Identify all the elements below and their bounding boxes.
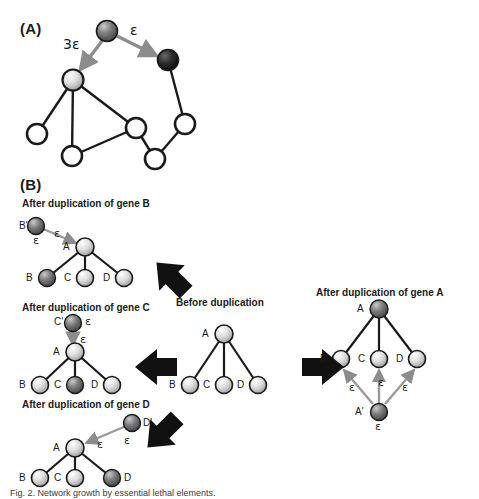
node-b <box>32 377 49 394</box>
label-a-before: A <box>202 328 209 339</box>
section-title-gene-d: After duplication of gene D <box>22 399 150 410</box>
label-a-gene-c: A <box>53 346 60 357</box>
node-source-mid <box>97 21 118 42</box>
state-gene-b-graph <box>28 218 133 287</box>
label-b-gene-b: B <box>26 272 33 283</box>
node-d <box>104 470 121 487</box>
epsilon-label-cprime: ε <box>85 315 91 328</box>
node-target-dark <box>158 50 179 71</box>
node-d <box>116 270 133 287</box>
epsilon-arrow-aprime-d <box>385 370 414 404</box>
panel-b-label: (B) <box>20 176 41 193</box>
label-d-before: D <box>237 379 244 390</box>
label-b-before: B <box>169 379 176 390</box>
state-gene-c-graph <box>32 315 121 394</box>
state-gene-a-graph <box>333 300 426 421</box>
label-a-gene-a: A <box>357 303 364 314</box>
epsilon-label-cprime-edge: ε <box>80 333 86 346</box>
node-d <box>409 351 426 368</box>
node-a <box>215 325 233 343</box>
node-c-prime <box>65 315 82 332</box>
epsilon-label-aprime-d: ε <box>402 381 408 394</box>
node-d-prime <box>124 415 141 432</box>
node-c <box>77 270 94 287</box>
label-c-gene-c: C <box>54 379 61 390</box>
figure-root: (A) (B) 3ε ε After duplication of gene B… <box>0 0 479 499</box>
section-title-gene-b: After duplication of gene B <box>22 198 150 209</box>
block-arrow-to-gene-d <box>135 405 190 460</box>
epsilon-label-dprime-edge: ε <box>97 438 103 451</box>
epsilon-label-dprime: ε <box>124 434 130 447</box>
node-a <box>370 300 388 318</box>
label-a-prime: A' <box>355 406 364 417</box>
label-c-prime: C' <box>54 316 63 327</box>
arrow-epsilon <box>117 36 157 56</box>
arrow-3epsilon <box>80 41 102 70</box>
node-open <box>126 118 146 138</box>
node-b <box>182 377 199 394</box>
epsilon-label-aprime-c: ε <box>378 376 384 389</box>
label-b-gene-d: B <box>19 472 26 483</box>
panel-a-epsilon-arrows <box>80 36 157 70</box>
node-c <box>216 377 233 394</box>
node-open <box>62 146 82 166</box>
epsilon-label-aprime: ε <box>375 420 381 433</box>
panel-a-epsilon-label: ε <box>130 22 138 38</box>
panel-a-edges <box>37 60 185 159</box>
figure-canvas <box>0 0 479 499</box>
node-open <box>145 149 165 169</box>
label-b-prime: B' <box>19 220 28 231</box>
epsilon-label-aprime-b: ε <box>349 381 355 394</box>
label-a-gene-d: A <box>53 442 60 453</box>
node-open <box>27 124 47 144</box>
state-before-graph <box>182 325 267 394</box>
label-b-gene-a: B <box>320 353 327 364</box>
node-open <box>175 114 195 134</box>
node-d <box>250 377 267 394</box>
epsilon-label-bprime-edge: ε <box>54 227 60 240</box>
label-d-prime: D' <box>143 417 152 428</box>
epsilon-arrow-dprime-a <box>86 426 126 443</box>
node-b <box>39 270 56 287</box>
label-d-gene-a: D <box>396 353 403 364</box>
label-c-gene-a: C <box>358 353 365 364</box>
node-c <box>67 470 84 487</box>
label-d-gene-c: D <box>91 379 98 390</box>
node-hub-light <box>63 70 84 91</box>
label-b-gene-c: B <box>19 379 26 390</box>
panel-a-graph <box>27 21 195 170</box>
node-b <box>32 470 49 487</box>
node-b-prime <box>28 218 45 235</box>
node-d <box>104 377 121 394</box>
node-c <box>371 351 388 368</box>
label-c-before: C <box>203 379 210 390</box>
panel-a-3epsilon-label: 3ε <box>63 36 79 52</box>
panel-a-label: (A) <box>20 20 41 37</box>
epsilon-label-bprime: ε <box>33 234 39 247</box>
section-title-gene-c: After duplication of gene C <box>22 302 150 313</box>
label-d-gene-d: D <box>124 472 131 483</box>
node-c <box>67 377 84 394</box>
node-a-prime <box>371 404 388 421</box>
node-a <box>76 238 94 256</box>
figure-caption: Fig. 2. Network growth by essential leth… <box>10 488 440 499</box>
label-a-gene-b: A <box>63 241 70 252</box>
panel-a-nodes <box>27 21 195 170</box>
block-arrows <box>135 250 344 461</box>
node-a <box>66 439 84 457</box>
label-c-gene-b: C <box>64 272 71 283</box>
section-title-before: Before duplication <box>176 297 264 308</box>
section-title-gene-a: After duplication of gene A <box>316 287 443 298</box>
label-d-gene-b: D <box>103 272 110 283</box>
label-c-gene-d: C <box>54 472 61 483</box>
